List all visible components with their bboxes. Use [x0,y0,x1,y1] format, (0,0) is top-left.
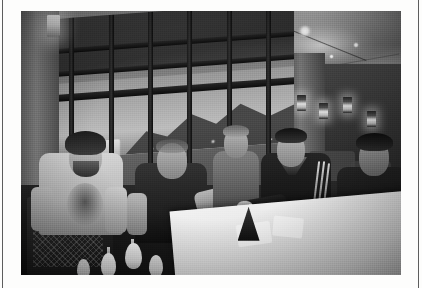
photo-canvas [21,11,401,275]
man-5-hair [356,133,393,151]
lantern-icon [343,97,352,113]
lantern-icon [319,103,328,119]
downlight-icon [353,42,359,48]
man-4-hair [275,128,307,143]
glass-tulip [149,255,163,275]
man-2-arm-left [127,193,147,235]
wall-sconce-icon [47,15,60,37]
glass-tulip [101,253,116,275]
man-1-arm-right [105,187,127,233]
man-1-arm-left [31,187,53,231]
lobby-group-photo [21,11,401,275]
printed-page [0,0,422,288]
glass-tulip [125,243,142,269]
downlight-icon [329,54,334,59]
man-1-beard [73,161,99,177]
lantern-icon [297,95,306,111]
man-1-shirt-graphic [67,183,103,225]
downlight-icon [297,25,313,37]
man-1-hair [65,131,106,155]
man-2-hair [156,139,188,153]
page-rule-right [418,0,419,288]
glass-tulip [77,259,90,275]
man-3-hair [223,125,249,137]
lantern-icon [367,111,376,127]
page-rule-left [2,0,3,288]
napkin-folded [272,215,304,238]
